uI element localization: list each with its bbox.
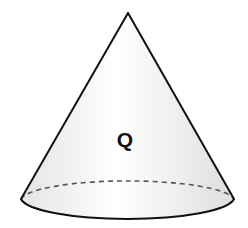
- cone-surface: [21, 13, 234, 219]
- cone-label: Q: [117, 128, 133, 151]
- cone-diagram: Q: [0, 0, 248, 228]
